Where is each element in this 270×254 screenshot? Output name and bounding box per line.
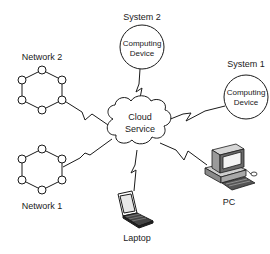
network-node (18, 176, 26, 184)
network2-ring (18, 66, 66, 114)
network1-title: Network 1 (22, 201, 63, 211)
pc-label: PC (223, 197, 236, 207)
network-node (58, 176, 66, 184)
network-node (38, 106, 46, 114)
link-cloud-laptop (131, 150, 137, 191)
network-node (18, 76, 26, 84)
network-node (58, 96, 66, 104)
system1-title: System 1 (227, 59, 265, 69)
network2-title: Network 2 (22, 52, 63, 62)
network-diagram: Cloud Service System 2 Computing Device … (0, 0, 270, 254)
network1-ring (18, 145, 66, 194)
network-node (38, 66, 46, 74)
network-node (38, 145, 46, 153)
cloud-label-line1: Cloud (128, 112, 152, 122)
network-node (58, 155, 66, 163)
link-cloud-network2 (63, 100, 111, 127)
network-node (38, 186, 46, 194)
system2-line2: Device (130, 49, 155, 58)
link-cloud-network1 (63, 139, 112, 167)
link-cloud-system1 (163, 106, 225, 122)
laptop-icon (118, 191, 153, 228)
cloud-label-line2: Service (125, 124, 155, 134)
network-node (58, 76, 66, 84)
network-node (18, 155, 26, 163)
pc-icon (205, 144, 257, 190)
system2-title: System 2 (123, 12, 161, 22)
system1-line2: Device (234, 98, 259, 107)
system2-line1: Computing (123, 39, 162, 48)
system1-node (224, 75, 268, 119)
link-cloud-pc (160, 143, 207, 165)
laptop-label: Laptop (123, 233, 151, 243)
system1-line1: Computing (227, 88, 266, 97)
network-node (18, 96, 26, 104)
